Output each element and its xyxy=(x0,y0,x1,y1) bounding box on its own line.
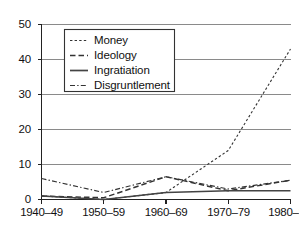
y-tick-label-10: 10 xyxy=(5,159,31,171)
x-tick-label-1950-59: 1950–59 xyxy=(72,207,135,219)
y-tick-label-0: 0 xyxy=(5,194,31,206)
x-tick-label-1980-89: 1980–89 xyxy=(258,207,299,219)
y-tick-label-30: 30 xyxy=(5,89,31,101)
line-chart: 50 40 30 20 10 0 1940–49 1950–59 1960–69… xyxy=(0,0,299,233)
y-tick-label-20: 20 xyxy=(5,124,31,136)
legend-item-money: Money xyxy=(94,35,128,47)
legend-item-ideology: Ideology xyxy=(94,50,137,62)
x-tick-label-1940-49: 1940–49 xyxy=(10,207,73,219)
y-tick-label-50: 50 xyxy=(5,19,31,31)
legend-item-ingratiation: Ingratiation xyxy=(94,65,150,77)
legend-item-disgruntlement: Disgruntlement xyxy=(94,80,170,92)
y-tick-label-40: 40 xyxy=(5,54,31,66)
x-tick-label-1960-69: 1960–69 xyxy=(135,207,198,219)
x-tick-label-1970-79: 1970–79 xyxy=(197,207,260,219)
chart-canvas xyxy=(0,0,299,233)
